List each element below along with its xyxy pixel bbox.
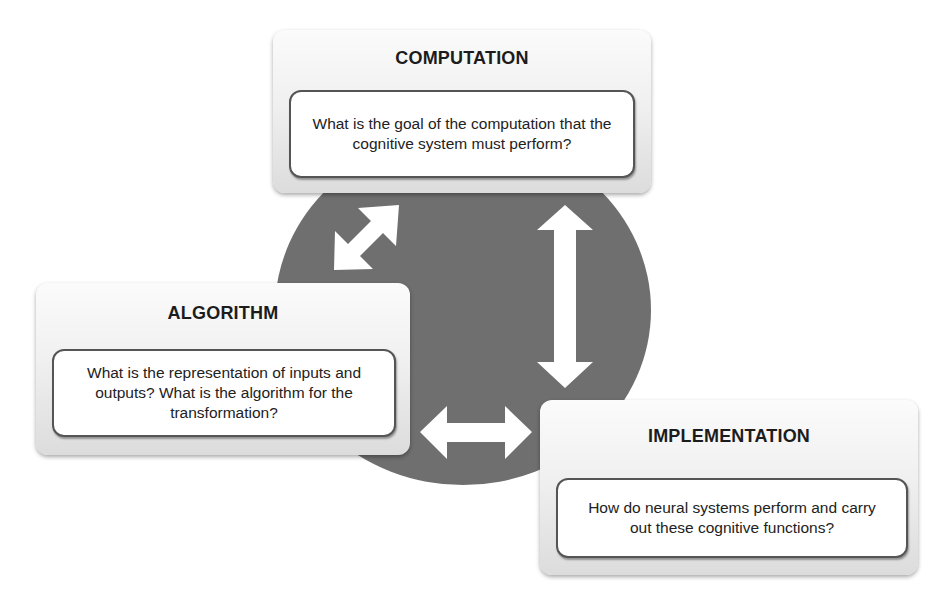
algorithm-question-box: What is the representation of inputs and… xyxy=(52,349,396,437)
computation-question-box: What is the goal of the computation that… xyxy=(289,90,635,178)
computation-question: What is the goal of the computation that… xyxy=(312,114,612,154)
computation-title: COMPUTATION xyxy=(273,48,651,69)
implementation-question: How do neural systems perform and carry … xyxy=(577,498,887,538)
algorithm-question: What is the representation of inputs and… xyxy=(60,363,388,423)
implementation-title: IMPLEMENTATION xyxy=(540,426,918,447)
algorithm-card: ALGORITHM What is the representation of … xyxy=(36,283,410,455)
algorithm-title: ALGORITHM xyxy=(36,303,410,324)
implementation-question-box: How do neural systems perform and carry … xyxy=(556,478,908,558)
computation-card: COMPUTATION What is the goal of the comp… xyxy=(273,30,651,193)
implementation-card: IMPLEMENTATION How do neural systems per… xyxy=(540,400,918,575)
